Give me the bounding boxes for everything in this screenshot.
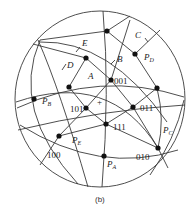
pole-011 <box>130 104 135 109</box>
pole-010 <box>155 145 160 150</box>
pole-pe <box>56 133 61 138</box>
label-pole-pb: PB <box>41 96 52 107</box>
label-101: 101 <box>70 104 84 114</box>
pole-pd <box>132 51 137 56</box>
label-pole-pc: PC <box>162 125 174 136</box>
pole-111 <box>103 121 108 126</box>
pole-001 <box>108 77 113 82</box>
arc-left-111 <box>69 87 158 148</box>
arc-pc-outer <box>150 100 184 175</box>
pole-pb <box>31 96 36 101</box>
stereographic-projection: + E D A B C PD PB PE PA PC 001 101 011 1… <box>0 0 193 212</box>
pole-top <box>104 28 109 33</box>
leader-b <box>111 60 115 64</box>
label-plane-b: B <box>117 54 123 64</box>
leader-d <box>62 64 66 70</box>
pole-right-intersection <box>154 85 159 90</box>
pole-left-intersection <box>66 84 71 89</box>
label-111: 111 <box>113 122 126 132</box>
label-pole-pa: PA <box>106 159 117 170</box>
label-001: 001 <box>114 76 128 86</box>
great-circle-pe <box>18 105 185 130</box>
arc-pc <box>157 88 161 148</box>
leader-c <box>145 38 148 42</box>
label-plane-e: E <box>81 38 88 48</box>
arc-top-left <box>40 31 107 40</box>
label-plane-c: C <box>135 30 142 40</box>
label-plane-a: A <box>87 71 94 81</box>
figure-caption: (b) <box>95 195 105 204</box>
label-pole-pe: PE <box>71 135 82 146</box>
label-pole-pd: PD <box>143 52 155 63</box>
label-011: 011 <box>140 103 153 113</box>
pole-101 <box>83 105 88 110</box>
pole-pa <box>101 153 106 158</box>
label-010: 010 <box>136 152 150 162</box>
center-mark: + <box>97 97 102 107</box>
pole-e-intersection <box>83 55 88 60</box>
label-100: 100 <box>47 150 61 160</box>
label-plane-d: D <box>66 60 74 70</box>
arc-top-right <box>107 16 130 31</box>
